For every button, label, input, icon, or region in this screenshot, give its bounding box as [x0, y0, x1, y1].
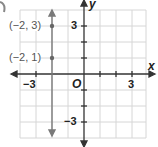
y-tick-label-neg3: −3: [64, 116, 77, 127]
origin-label: O: [72, 78, 81, 90]
point-neg2-3: [50, 24, 54, 28]
y-axis-label: y: [89, 0, 96, 10]
vertical-line-x-neg2: [49, 10, 55, 136]
x-tick-label-neg3: −3: [23, 79, 36, 90]
x-axis-label: x: [148, 60, 155, 72]
x-tick-label-3: 3: [128, 79, 134, 90]
point-label-neg2-3: (−2, 3): [9, 20, 41, 31]
clipped-marker-glyph: [0, 2, 5, 12]
point-label-neg2-1: (−2, 1): [9, 52, 41, 63]
y-tick-label-3: 3: [71, 20, 77, 31]
point-neg2-1: [50, 56, 54, 60]
x-axis: [11, 71, 155, 77]
